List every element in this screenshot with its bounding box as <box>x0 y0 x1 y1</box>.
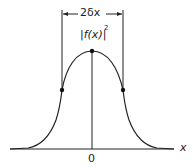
x-axis-label: x <box>180 141 187 154</box>
function-exponent: 2 <box>104 24 108 32</box>
left-inflection-point <box>60 88 64 92</box>
diagram-canvas <box>0 0 193 168</box>
arrowhead-right-icon <box>117 12 122 16</box>
width-label: 2δx <box>80 6 100 19</box>
right-inflection-point <box>121 88 125 92</box>
function-label: |f(x)| <box>80 28 106 41</box>
gaussian-diagram: 2δx |f(x)| 2 x 0 <box>0 0 193 168</box>
peak-point <box>90 49 94 53</box>
arrowhead-left-icon <box>63 12 68 16</box>
origin-label: 0 <box>88 152 95 165</box>
